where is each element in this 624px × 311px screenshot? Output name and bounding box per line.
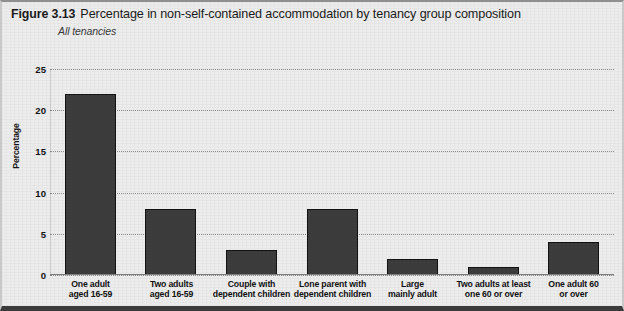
bar — [145, 209, 196, 275]
x-axis-line — [50, 274, 614, 275]
x-axis-label: Largemainly adult — [366, 279, 459, 300]
y-axis-tick-label: 10 — [12, 187, 46, 198]
bar — [548, 242, 599, 275]
figure-subtitle: All tenancies — [58, 25, 116, 37]
gridline — [50, 151, 614, 152]
y-axis-tick-label: 5 — [12, 228, 46, 239]
bar — [226, 250, 277, 275]
x-axis-label-line: Couple with — [205, 279, 298, 289]
x-axis-label-line: Large — [366, 279, 459, 289]
gridline — [50, 110, 614, 111]
bar — [387, 259, 438, 275]
x-axis-label-line: aged 16-59 — [44, 289, 137, 299]
figure-title-line: Figure 3.13Percentage in non-self-contai… — [11, 7, 521, 21]
x-axis-label-line: One adult 60 — [527, 279, 620, 289]
figure-title: Percentage in non-self-contained accommo… — [80, 7, 521, 21]
x-axis-label-line: or over — [527, 289, 620, 299]
x-axis-label-line: One adult — [44, 279, 137, 289]
x-axis-label-line: dependent children — [205, 289, 298, 299]
gridline — [50, 275, 614, 276]
figure-number: Figure 3.13 — [11, 7, 75, 21]
x-axis-label: One adult 60or over — [527, 279, 620, 300]
x-axis-labels: One adultaged 16-59Two adultsaged 16-59C… — [50, 279, 614, 307]
figure-panel: Figure 3.13Percentage in non-self-contai… — [0, 0, 624, 311]
x-axis-label: One adultaged 16-59 — [44, 279, 137, 300]
x-axis-label: Couple withdependent children — [205, 279, 298, 300]
y-axis-tick-label: 0 — [12, 270, 46, 281]
bar — [65, 94, 116, 275]
y-axis-tick-label: 20 — [12, 105, 46, 116]
bar — [307, 209, 358, 275]
y-axis-tick-label: 15 — [12, 146, 46, 157]
x-axis-label-line: mainly adult — [366, 289, 459, 299]
gridline — [50, 193, 614, 194]
plot-area — [50, 69, 614, 275]
y-axis-tick-label: 25 — [12, 64, 46, 75]
gridline — [50, 69, 614, 70]
y-axis-ticks: 0510152025 — [6, 69, 46, 275]
